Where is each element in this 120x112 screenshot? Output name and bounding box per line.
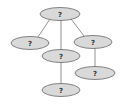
node-left-label: ? <box>28 40 32 48</box>
node-root-label: ? <box>58 11 62 19</box>
node-middle: ? <box>42 50 80 63</box>
node-root: ? <box>40 8 80 21</box>
node-right-child-label: ? <box>93 70 97 78</box>
node-middle-label: ? <box>59 53 63 61</box>
edge-root-left <box>38 19 50 37</box>
node-right: ? <box>74 36 112 49</box>
node-right-label: ? <box>91 39 95 47</box>
node-right-child: ? <box>75 67 115 80</box>
tree-diagram: ? ? ? ? ? ? <box>0 0 120 112</box>
edge-root-right <box>71 19 84 36</box>
node-middle-child-label: ? <box>59 87 63 95</box>
node-middle-child: ? <box>42 84 80 97</box>
node-left: ? <box>11 37 49 50</box>
